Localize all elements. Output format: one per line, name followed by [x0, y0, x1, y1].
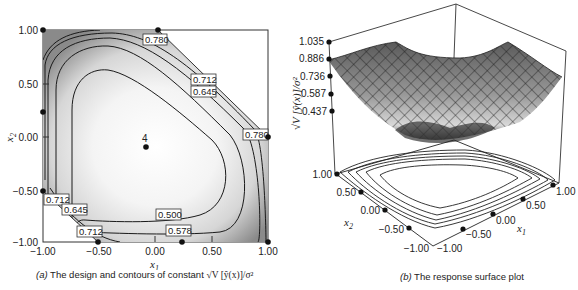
svg-text:0.578: 0.578 [168, 225, 192, 236]
contour-label: 0.645 [191, 86, 217, 97]
svg-text:−1.00: −1.00 [437, 243, 463, 254]
svg-text:0.500: 0.500 [158, 209, 182, 220]
svg-text:−0.50: −0.50 [466, 229, 492, 240]
svg-text:−0.50: −0.50 [86, 246, 112, 257]
floor-axis-points [334, 171, 555, 231]
svg-text:−0.50: −0.50 [13, 186, 39, 197]
svg-text:0.00: 0.00 [361, 205, 381, 216]
svg-text:0.886: 0.886 [299, 53, 324, 64]
svg-text:1.00: 1.00 [19, 25, 39, 36]
design-point [40, 27, 46, 33]
contour-plot-panel: 0.780 0.712 0.645 0.780 0.712 0.645 0.71… [0, 0, 290, 290]
svg-text:0.780: 0.780 [245, 129, 269, 140]
svg-text:0.00: 0.00 [145, 246, 165, 257]
svg-text:0.645: 0.645 [193, 86, 217, 97]
svg-text:0.712: 0.712 [193, 74, 217, 85]
surface-plot-panel: 1.035 0.886 0.736 0.587 0.437 √V [ŷ(x)]/… [290, 0, 578, 290]
contour-label: 0.780 [243, 129, 269, 140]
contour-label: 0.645 [62, 204, 88, 215]
contour-label: 0.712 [77, 226, 103, 237]
response-surface [320, 30, 570, 150]
x2-axis-label: x2 [343, 216, 353, 231]
z-axis-label: √V [ŷ(x)]/σ² [290, 77, 303, 130]
svg-text:0.736: 0.736 [300, 71, 325, 82]
svg-text:1.035: 1.035 [299, 36, 324, 47]
surface-plot-svg: 1.035 0.886 0.736 0.587 0.437 √V [ŷ(x)]/… [290, 0, 578, 270]
svg-text:1.00: 1.00 [258, 246, 278, 257]
design-point [155, 27, 161, 33]
design-point [179, 239, 185, 245]
svg-text:−1.00: −1.00 [30, 246, 56, 257]
svg-text:−0.50: −0.50 [379, 224, 405, 235]
svg-text:0.780: 0.780 [145, 34, 169, 45]
design-point [95, 239, 101, 245]
svg-text:0.50: 0.50 [19, 79, 39, 90]
svg-text:0.50: 0.50 [526, 200, 546, 211]
contour-plot-svg: 0.780 0.712 0.645 0.780 0.712 0.645 0.71… [0, 0, 290, 270]
design-point [265, 239, 271, 245]
svg-text:0.50: 0.50 [337, 187, 357, 198]
caption-a: (a) The design and contours of constant … [36, 269, 253, 280]
svg-text:1.00: 1.00 [556, 186, 576, 197]
svg-text:0.712: 0.712 [79, 226, 103, 237]
contour-label: 0.500 [156, 209, 182, 220]
design-point [40, 188, 46, 194]
contour-label: 0.712 [191, 74, 217, 85]
svg-text:0.50: 0.50 [202, 246, 222, 257]
design-point [40, 109, 46, 115]
y-axis-label: x2 [3, 133, 18, 143]
contour-label: 0.780 [143, 34, 169, 45]
svg-text:1.00: 1.00 [313, 169, 333, 180]
contour-label: 0.578 [166, 225, 192, 236]
x1-axis-label: x1 [516, 222, 526, 237]
center-replicate-label: 4 [142, 133, 148, 144]
svg-text:0.00: 0.00 [496, 215, 516, 226]
x-axis-ticks: −1.00 −0.50 0.00 0.50 1.00 [30, 246, 278, 257]
svg-text:−1.00: −1.00 [404, 243, 430, 254]
center-point [143, 144, 149, 150]
svg-text:0.437: 0.437 [302, 106, 327, 117]
svg-text:0.00: 0.00 [19, 132, 39, 143]
caption-b: (b) The response surface plot [400, 271, 524, 282]
design-point [265, 134, 271, 140]
svg-text:0.645: 0.645 [64, 204, 88, 215]
svg-text:0.587: 0.587 [301, 88, 326, 99]
